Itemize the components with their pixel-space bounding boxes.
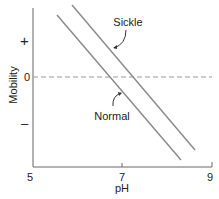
- normal-arrowhead-icon: [118, 92, 122, 96]
- sickle-arrow-icon: [114, 30, 126, 48]
- normal-annotation: Normal: [94, 110, 129, 122]
- normal-line: [57, 15, 181, 160]
- y-tick-minus: –: [21, 116, 29, 131]
- sickle-arrowhead-icon: [113, 45, 117, 49]
- x-axis-label: pH: [115, 182, 129, 194]
- y-tick-plus: +: [20, 32, 29, 49]
- sickle-annotation: Sickle: [113, 16, 142, 28]
- mobility-vs-ph-chart: + 0 – 5 7 9 pH Mobility Sickle Normal: [0, 0, 219, 199]
- y-axis-label: Mobility: [7, 66, 19, 104]
- y-tick-zero: 0: [24, 71, 30, 83]
- x-tick-label-9: 9: [207, 171, 213, 183]
- x-tick-label-5: 5: [27, 171, 33, 183]
